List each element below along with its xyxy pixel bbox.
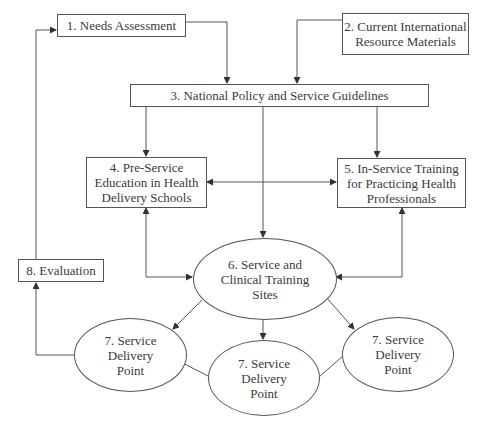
- node-service-delivery-point-middle: 7. Service Delivery Point: [208, 340, 320, 416]
- node-evaluation: 8. Evaluation: [18, 259, 104, 282]
- node-international-resource-materials: 2. Current International Resource Materi…: [342, 13, 469, 55]
- node-label: 7. Service Delivery Point: [372, 332, 424, 377]
- node-label: 5. In-Service Training for Practicing He…: [344, 161, 458, 206]
- node-service-delivery-point-right: 7. Service Delivery Point: [342, 317, 454, 392]
- edge-7-middle-to-7-right: [319, 356, 343, 377]
- node-national-policy-guidelines: 3. National Policy and Service Guideline…: [130, 84, 429, 107]
- edge-6-to-7-left: [173, 300, 202, 329]
- edge-4-to-6: [146, 208, 192, 277]
- node-in-service-training: 5. In-Service Training for Practicing He…: [337, 158, 466, 208]
- edge-5-to-6: [336, 208, 402, 277]
- edge-6-to-7-right: [326, 297, 354, 329]
- node-label: 1. Needs Assessment: [67, 18, 176, 33]
- node-label: 7. Service Delivery Point: [238, 356, 290, 401]
- node-label: 2. Current International Resource Materi…: [344, 19, 466, 49]
- node-needs-assessment: 1. Needs Assessment: [57, 14, 186, 37]
- node-label: 6. Service and Clinical Training Sites: [221, 257, 309, 302]
- edge-7-to-8: [36, 283, 74, 355]
- node-label: 4. Pre-Service Education in Health Deliv…: [95, 160, 199, 205]
- node-label: 3. National Policy and Service Guideline…: [170, 88, 388, 103]
- node-service-clinical-training-sites: 6. Service and Clinical Training Sites: [193, 238, 337, 320]
- node-pre-service-education: 4. Pre-Service Education in Health Deliv…: [86, 157, 207, 208]
- edge-1-to-3: [185, 22, 227, 83]
- node-service-delivery-point-left: 7. Service Delivery Point: [74, 318, 187, 392]
- node-label: 7. Service Delivery Point: [105, 333, 157, 378]
- edge-8-to-1: [36, 30, 56, 259]
- node-label: 8. Evaluation: [26, 263, 95, 278]
- edge-2-to-3: [297, 20, 342, 83]
